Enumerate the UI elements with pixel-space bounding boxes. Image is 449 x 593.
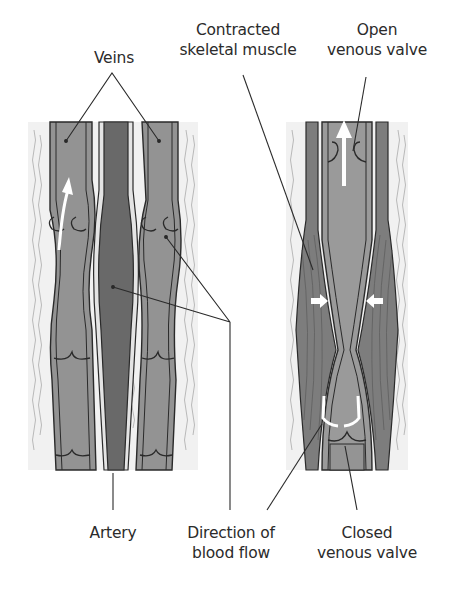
central-vein <box>322 122 372 470</box>
left-vein <box>50 122 96 470</box>
label-closed-valve: Closed venous valve <box>312 523 422 563</box>
label-veins: Veins <box>84 48 144 68</box>
right-panel-contracted <box>286 120 408 470</box>
venous-pump-diagram <box>0 0 449 593</box>
left-panel-relaxed <box>28 122 198 470</box>
label-open-valve: Open venous valve <box>322 20 432 60</box>
label-contracted-muscle: Contracted skeletal muscle <box>168 20 308 60</box>
label-direction-of-blood-flow: Direction of blood flow <box>172 523 290 563</box>
label-artery: Artery <box>78 523 148 543</box>
